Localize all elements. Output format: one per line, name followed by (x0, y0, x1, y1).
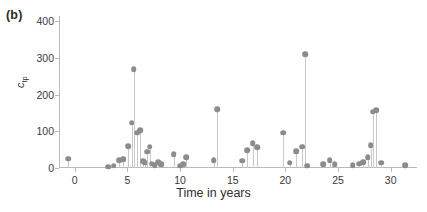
x-axis-tick-label: 30 (385, 174, 397, 186)
data-stem (283, 133, 284, 168)
x-axis-tick (180, 168, 181, 172)
data-point (403, 162, 409, 168)
data-stem (302, 147, 303, 168)
data-point (180, 162, 186, 168)
data-point (171, 151, 177, 157)
y-axis-tick-label: 100 (36, 125, 54, 137)
x-axis-tick (285, 168, 286, 172)
y-axis-title: ctp (14, 76, 29, 88)
data-point (293, 148, 299, 154)
data-stem (371, 145, 372, 168)
data-point (137, 127, 143, 133)
data-point (120, 156, 126, 162)
data-point (378, 160, 384, 166)
data-stem (137, 133, 138, 168)
y-axis-tick (55, 58, 59, 59)
data-stem (257, 147, 258, 168)
data-point (111, 163, 117, 169)
y-axis-tick (55, 21, 59, 22)
x-axis-tick-label: 0 (72, 174, 78, 186)
data-point (131, 66, 137, 72)
y-axis-tick-label: 400 (36, 15, 54, 27)
data-point (332, 162, 338, 168)
data-point (147, 144, 153, 150)
data-stem (305, 54, 306, 168)
data-point (299, 144, 305, 150)
x-axis-tick (127, 168, 128, 172)
x-axis-tick (75, 168, 76, 172)
x-axis-title: Time in years (0, 186, 427, 200)
data-point (373, 107, 379, 113)
data-stem (376, 110, 377, 168)
data-point (305, 163, 311, 169)
data-stem (217, 109, 218, 168)
data-point (350, 162, 356, 168)
data-point (254, 145, 260, 151)
x-axis-tick (233, 168, 234, 172)
data-stem (132, 123, 133, 168)
x-axis-tick (338, 168, 339, 172)
data-stem (134, 69, 135, 168)
data-point (211, 157, 217, 163)
y-axis-title-base: c (14, 83, 26, 89)
data-point (303, 52, 309, 58)
data-point (320, 162, 326, 168)
x-axis-tick-label: 15 (227, 174, 239, 186)
plot-area: 0100200300400 051015202530 (59, 16, 417, 168)
x-axis-tick-label: 10 (174, 174, 186, 186)
data-stem (373, 112, 374, 168)
x-axis-tick-label: 25 (332, 174, 344, 186)
y-axis-tick-label: 200 (36, 89, 54, 101)
y-axis-tick (55, 95, 59, 96)
y-axis-tick-label: 300 (36, 52, 54, 64)
y-axis-title-subscript: tp (20, 76, 29, 82)
data-point (361, 159, 367, 165)
y-axis-tick-label: 0 (48, 162, 54, 174)
data-point (280, 130, 286, 136)
data-point (245, 148, 251, 154)
data-point (126, 143, 132, 149)
data-point (239, 158, 245, 164)
x-axis-tick-label: 5 (125, 174, 131, 186)
data-point (287, 160, 293, 166)
data-point (214, 107, 220, 113)
data-point (184, 154, 190, 160)
y-axis-line (59, 16, 60, 168)
x-axis-tick-label: 20 (280, 174, 292, 186)
y-axis-tick (55, 168, 59, 169)
x-axis-tick (391, 168, 392, 172)
data-point (158, 162, 164, 168)
data-point (365, 154, 371, 160)
y-axis-tick (55, 131, 59, 132)
data-point (66, 156, 72, 162)
figure-panel-b: (b) ctp Time in years 0100200300400 0510… (0, 0, 427, 212)
panel-label: (b) (6, 8, 23, 22)
data-stem (128, 146, 129, 168)
